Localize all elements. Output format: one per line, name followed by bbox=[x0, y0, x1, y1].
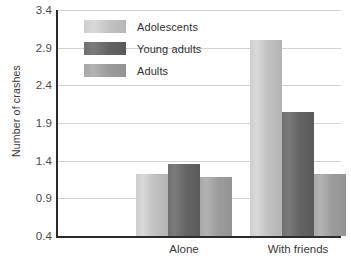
bar-fill bbox=[168, 164, 200, 236]
legend-item-young-adults: Young adults bbox=[84, 40, 201, 57]
y-axis-title: Number of crashes bbox=[10, 46, 22, 176]
gridline-0.4 bbox=[58, 236, 341, 237]
bar-fill bbox=[282, 112, 314, 236]
bar-adolescents-with-friends bbox=[250, 40, 282, 236]
y-tick-1.9: 1.9 bbox=[36, 117, 52, 129]
bar-fill bbox=[250, 40, 282, 236]
bar-fill bbox=[200, 177, 232, 237]
legend-label: Young adults bbox=[137, 43, 201, 55]
y-tick-0.9: 0.9 bbox=[36, 192, 52, 204]
y-tick-2.9: 2.9 bbox=[36, 42, 52, 54]
x-tick-with-friends: With friends bbox=[268, 243, 329, 255]
y-tick-2.4: 2.4 bbox=[36, 79, 52, 91]
legend-swatch-icon bbox=[84, 64, 126, 77]
y-tick-0.4: 0.4 bbox=[36, 230, 52, 242]
bar-adults-with-friends bbox=[314, 174, 346, 236]
legend-label: Adolescents bbox=[137, 21, 198, 33]
bar-group-with-friends bbox=[250, 10, 346, 236]
legend-label: Adults bbox=[137, 65, 168, 77]
y-tick-3.4: 3.4 bbox=[36, 4, 52, 16]
bar-adolescents-alone bbox=[136, 174, 168, 236]
bar-chart: Number of crashes 0.40.91.41.92.42.93.4 … bbox=[0, 0, 351, 263]
legend-swatch-icon bbox=[84, 20, 126, 33]
y-tick-1.4: 1.4 bbox=[36, 155, 52, 167]
legend-item-adolescents: Adolescents bbox=[84, 18, 201, 35]
bar-young-adults-with-friends bbox=[282, 112, 314, 236]
bar-fill bbox=[136, 174, 168, 236]
bar-adults-alone bbox=[200, 177, 232, 237]
chart-legend: AdolescentsYoung adultsAdults bbox=[84, 18, 201, 84]
bar-young-adults-alone bbox=[168, 164, 200, 236]
legend-swatch-icon bbox=[84, 42, 126, 55]
legend-item-adults: Adults bbox=[84, 62, 201, 79]
plot-area: 0.40.91.41.92.42.93.4 AloneWith friends … bbox=[56, 10, 341, 238]
x-tick-alone: Alone bbox=[169, 243, 198, 255]
bar-fill bbox=[314, 174, 346, 236]
